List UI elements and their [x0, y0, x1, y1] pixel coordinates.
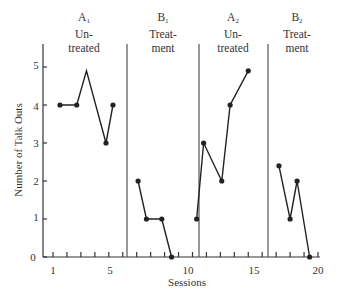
- phase-desc-a2-line1: Un-: [224, 28, 242, 40]
- y-tick-label: 4: [33, 100, 39, 112]
- x-tick-label: 15: [249, 264, 261, 276]
- data-point: [246, 68, 251, 73]
- x-tick-label: 20: [313, 264, 325, 276]
- phase-header-a2: A2: [227, 11, 239, 25]
- y-tick-label: 0: [30, 251, 36, 263]
- y-tick-label: 2: [33, 175, 39, 187]
- data-point: [294, 178, 299, 183]
- phase-header-a1: A1: [78, 11, 90, 25]
- data-point: [110, 102, 115, 107]
- phase-desc-b1-line2: ment: [152, 42, 176, 54]
- x-tick-label: 5: [107, 264, 113, 276]
- talk-outs-chart: 0 1 2 3 4 5 1 5 10 15 20 Sessions Number…: [0, 0, 341, 298]
- data-point: [201, 140, 206, 145]
- data-point: [159, 216, 164, 221]
- phase-desc-b2-line1: Treat-: [283, 28, 311, 40]
- phase-desc-a1-line2: treated: [68, 42, 100, 54]
- series-a2: [194, 68, 251, 221]
- data-point: [144, 216, 149, 221]
- series-a1: [57, 71, 115, 146]
- data-point: [169, 254, 174, 259]
- series-b1: [135, 178, 174, 259]
- phase-desc-b2-line2: ment: [286, 42, 310, 54]
- phase-desc-b1-line1: Treat-: [149, 28, 177, 40]
- data-point: [57, 102, 62, 107]
- data-point: [194, 216, 199, 221]
- y-axis-title: Number of Talk Outs: [12, 103, 24, 196]
- data-point: [103, 140, 108, 145]
- phase-header-b1: B1: [157, 11, 169, 25]
- data-point: [276, 163, 281, 168]
- data-point: [219, 178, 224, 183]
- series-line: [138, 181, 171, 257]
- y-tick-label: 5: [33, 59, 39, 71]
- phase-desc-a2-line2: treated: [217, 42, 249, 54]
- y-tick-label: 1: [33, 211, 39, 223]
- data-series: [57, 68, 312, 259]
- series-line: [60, 71, 113, 143]
- x-ticks: [53, 252, 318, 257]
- series-b2: [276, 163, 312, 259]
- y-tick-label: 3: [33, 137, 39, 149]
- series-line: [279, 166, 310, 257]
- x-tick-label: 10: [183, 264, 195, 276]
- phase-header-b2: B2: [291, 11, 303, 25]
- data-point: [74, 102, 79, 107]
- data-point: [228, 102, 233, 107]
- phase-desc-a1-line1: Un-: [75, 28, 93, 40]
- data-point: [307, 254, 312, 259]
- data-point: [288, 216, 293, 221]
- data-point: [135, 178, 140, 183]
- x-axis-title: Sessions: [168, 276, 206, 288]
- x-tick-label: 1: [50, 264, 56, 276]
